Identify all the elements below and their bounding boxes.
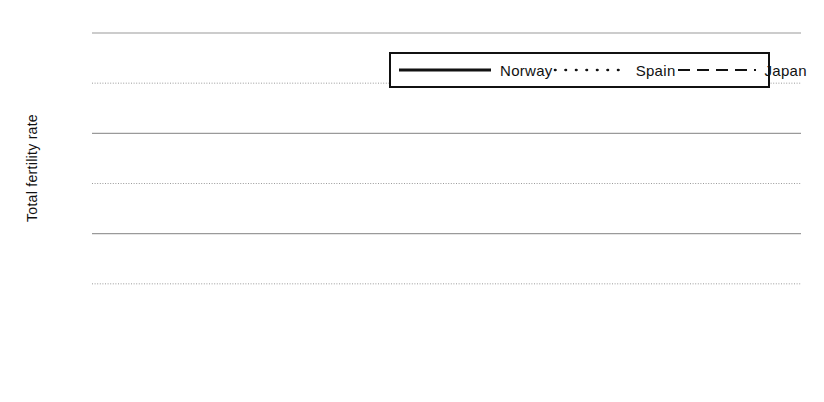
legend-swatch-dotted (553, 63, 629, 77)
fertility-rate-line-chart: Total fertility rate Norway Spain Japan (0, 0, 824, 402)
legend-item-norway: Norway (397, 62, 553, 79)
legend-label-japan: Japan (765, 62, 807, 79)
chart-legend: Norway Spain Japan (389, 52, 770, 88)
legend-item-spain: Spain (553, 62, 676, 79)
legend-label-spain: Spain (636, 62, 676, 79)
legend-swatch-solid (397, 63, 493, 77)
legend-swatch-dashed (676, 63, 758, 77)
y-axis-title: Total fertility rate (24, 58, 40, 278)
legend-item-japan: Japan (676, 62, 807, 79)
legend-label-norway: Norway (500, 62, 553, 79)
